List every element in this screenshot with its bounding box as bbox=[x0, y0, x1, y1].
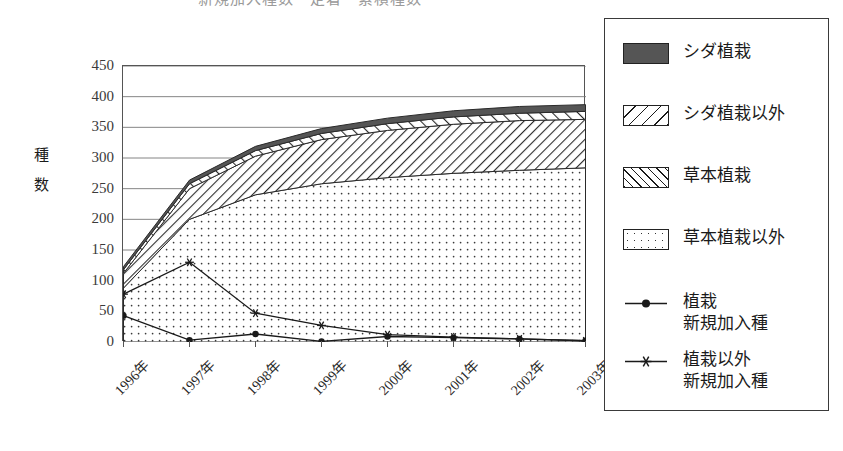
y-tick-label-100: 100 bbox=[52, 271, 114, 288]
legend-item-5[interactable]: 植栽以外 新規加入種 bbox=[623, 349, 768, 393]
x-axis-labels: 1996年1997年1998年1999年2000年2001年2002年2003年 bbox=[122, 341, 585, 446]
plot-area bbox=[122, 65, 585, 341]
y-tick-label-300: 300 bbox=[52, 149, 114, 166]
x-tick-mark-1996年 bbox=[123, 341, 124, 347]
x-tick-mark-2002年 bbox=[519, 341, 520, 347]
legend-label-3: 草本植栽以外 bbox=[683, 227, 785, 249]
x-tick-label-2001年: 2001年 bbox=[439, 355, 483, 399]
y-tick-label-150: 150 bbox=[52, 241, 114, 258]
x-tick-label-1999年: 1999年 bbox=[307, 355, 351, 399]
x-tick-mark-1998年 bbox=[255, 341, 256, 347]
x-tick-mark-2001年 bbox=[453, 341, 454, 347]
stacked-areas bbox=[124, 105, 586, 342]
legend-item-0[interactable]: シダ植栽 bbox=[623, 41, 751, 64]
y-tick-label-400: 400 bbox=[52, 87, 114, 104]
y-axis-tick-labels: 450400350300250200150100500 bbox=[48, 65, 114, 341]
x-tick-label-1996年: 1996年 bbox=[109, 355, 153, 399]
x-tick-mark-1999年 bbox=[321, 341, 322, 347]
chart-title: 新規加入種数・定着・累積種数 bbox=[0, 0, 620, 8]
legend-asterisk-marker-icon bbox=[623, 351, 669, 372]
legend-dot-marker-icon bbox=[623, 293, 669, 314]
y-tick-label-450: 450 bbox=[52, 57, 114, 74]
legend-item-1[interactable]: シダ植栽以外 bbox=[623, 103, 785, 126]
y-tick-label-350: 350 bbox=[52, 118, 114, 135]
x-tick-label-1997年: 1997年 bbox=[175, 355, 219, 399]
legend-label-0: シダ植栽 bbox=[683, 41, 751, 63]
legend-label-5: 植栽以外 新規加入種 bbox=[683, 349, 768, 393]
y-tick-label-250: 250 bbox=[52, 179, 114, 196]
y-tick-label-0: 0 bbox=[52, 333, 114, 350]
legend-swatch-solid-dark bbox=[623, 43, 669, 64]
chart-svg bbox=[123, 66, 586, 342]
y-tick-label-50: 50 bbox=[52, 302, 114, 319]
x-tick-label-2000年: 2000年 bbox=[373, 355, 417, 399]
x-tick-mark-2003年 bbox=[585, 341, 586, 347]
x-tick-mark-1997年 bbox=[189, 341, 190, 347]
x-tick-label-1998年: 1998年 bbox=[241, 355, 285, 399]
legend-item-4[interactable]: 植栽 新規加入種 bbox=[623, 291, 768, 335]
legend-swatch-hatch-left bbox=[623, 105, 669, 126]
x-tick-label-2002年: 2002年 bbox=[505, 355, 549, 399]
legend-swatch-hatch-right bbox=[623, 167, 669, 188]
legend-label-4: 植栽 新規加入種 bbox=[683, 291, 768, 335]
legend-item-3[interactable]: 草本植栽以外 bbox=[623, 227, 785, 250]
legend-label-2: 草本植栽 bbox=[683, 165, 751, 187]
legend-swatch-dots bbox=[623, 229, 669, 250]
x-tick-mark-2000年 bbox=[387, 341, 388, 347]
legend-label-1: シダ植栽以外 bbox=[683, 103, 785, 125]
y-tick-label-200: 200 bbox=[52, 210, 114, 227]
chart-legend: シダ植栽シダ植栽以外草本植栽草本植栽以外植栽 新規加入種植栽以外 新規加入種 bbox=[604, 18, 829, 411]
legend-item-2[interactable]: 草本植栽 bbox=[623, 165, 751, 188]
marker-dot-1998年 bbox=[252, 331, 258, 337]
